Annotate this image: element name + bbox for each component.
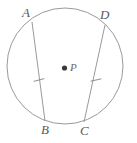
chord-ab-segment (32, 22, 45, 121)
chord-dc-tick-mark-icon (91, 79, 102, 81)
vertex-label-b: B (41, 123, 49, 136)
vertex-label-c: C (80, 124, 89, 137)
vertex-label-d: D (100, 8, 109, 21)
geometry-figure: A D B C P (0, 0, 137, 143)
vertex-label-a: A (22, 6, 30, 19)
chord-dc-segment (84, 25, 105, 122)
geometry-canvas (0, 0, 137, 143)
center-point-dot-icon (62, 65, 67, 70)
center-point-label-p: P (70, 62, 77, 73)
